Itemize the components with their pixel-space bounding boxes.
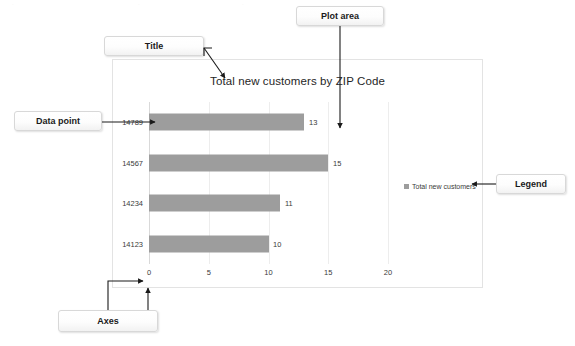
xtick-label: 20 — [384, 268, 392, 277]
category-label: 14234 — [122, 199, 143, 208]
connector-title-elbow — [204, 48, 212, 56]
table-row: 14789 13 — [149, 102, 388, 143]
chart-title: Total new customers by ZIP Code — [113, 75, 482, 87]
xtick-label: 5 — [207, 268, 211, 277]
callout-data-point[interactable]: Data point — [14, 111, 102, 131]
gridline-20 — [388, 102, 389, 264]
bar-14123[interactable] — [149, 235, 269, 252]
xtick-label: 15 — [324, 268, 332, 277]
legend-swatch-icon — [404, 184, 409, 189]
callout-title-label: Title — [145, 41, 163, 51]
diagram-canvas: · · · Total new customers by ZIP Code 14… — [0, 0, 575, 346]
plot-area: 14789 13 14567 15 14234 11 14123 10 0 — [149, 102, 388, 264]
table-row: 14123 10 — [149, 224, 388, 265]
callout-legend[interactable]: Legend — [496, 174, 566, 194]
callout-data-point-label: Data point — [36, 116, 80, 126]
chart-legend[interactable]: Total new customers — [404, 183, 476, 190]
table-row: 14567 15 — [149, 143, 388, 184]
chart-frame: Total new customers by ZIP Code 14789 13… — [112, 59, 483, 288]
scan-artifact: · — [12, 1, 14, 7]
xtick-label: 10 — [264, 268, 272, 277]
scan-artifact: · — [242, 1, 244, 7]
bar-value-label: 13 — [309, 118, 317, 127]
bar-14789[interactable] — [149, 114, 304, 131]
bar-value-label: 11 — [285, 199, 293, 208]
callout-plot-area-label: Plot area — [321, 11, 359, 21]
callout-legend-label: Legend — [515, 179, 547, 189]
callout-axes-label: Axes — [97, 316, 119, 326]
scan-artifact: · — [138, 1, 140, 7]
category-label: 14789 — [122, 118, 143, 127]
callout-title[interactable]: Title — [104, 36, 204, 56]
legend-entry-label: Total new customers — [412, 183, 476, 190]
bar-14234[interactable] — [149, 195, 280, 212]
bar-14567[interactable] — [149, 154, 328, 171]
bar-value-label: 10 — [273, 239, 281, 248]
bar-value-label: 15 — [333, 158, 341, 167]
callout-plot-area[interactable]: Plot area — [296, 6, 384, 26]
category-label: 14123 — [122, 239, 143, 248]
callout-axes[interactable]: Axes — [58, 310, 158, 332]
category-label: 14567 — [122, 158, 143, 167]
table-row: 14234 11 — [149, 183, 388, 224]
xtick-label: 0 — [147, 268, 151, 277]
